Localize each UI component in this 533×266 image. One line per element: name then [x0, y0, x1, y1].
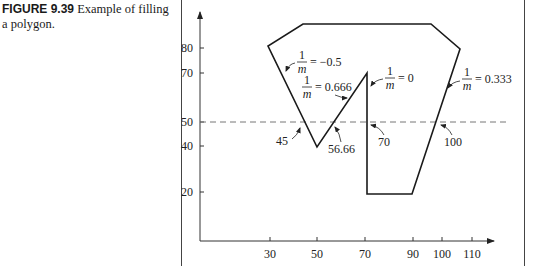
svg-text:= 0.333: = 0.333: [475, 72, 512, 86]
intersection-label-56-66: 56.66: [328, 127, 355, 156]
svg-text:1: 1: [304, 73, 310, 87]
y-tick-40: 40: [181, 139, 193, 153]
slope-label-neg-0-5: 1 m = −0.5: [286, 48, 342, 76]
svg-text:= −0.5: = −0.5: [310, 55, 342, 69]
x-tick-100: 100: [433, 247, 451, 261]
slope-label-0-333: 1 m = 0.333: [448, 65, 512, 93]
svg-text:1: 1: [299, 48, 305, 62]
y-tick-20: 20: [181, 185, 193, 199]
x-tick-70: 70: [359, 247, 371, 261]
polygon: [268, 24, 460, 194]
y-tick-70: 70: [181, 66, 193, 80]
svg-text:100: 100: [444, 135, 462, 149]
svg-text:56.66: 56.66: [328, 142, 355, 156]
svg-text:45: 45: [276, 134, 288, 148]
intersection-label-100: 100: [441, 125, 462, 149]
x-tick-110: 110: [463, 247, 481, 261]
y-tick-50: 50: [181, 115, 193, 129]
slope-label-0-666: 1 m = 0.666: [302, 73, 352, 101]
svg-text:m: m: [303, 87, 312, 101]
svg-text:70: 70: [378, 135, 390, 149]
svg-text:1: 1: [387, 64, 393, 78]
intersection-label-45: 45: [276, 128, 300, 148]
intersection-label-70: 70: [371, 125, 390, 149]
svg-text:= 0: = 0: [398, 71, 414, 85]
axes: [200, 12, 494, 241]
x-tick-90: 90: [407, 247, 419, 261]
svg-text:m: m: [463, 79, 472, 93]
svg-text:m: m: [386, 78, 395, 92]
x-tick-30: 30: [264, 247, 276, 261]
x-tick-50: 50: [311, 247, 323, 261]
svg-text:1: 1: [464, 65, 470, 79]
svg-text:= 0.666: = 0.666: [315, 80, 352, 94]
y-tick-80: 80: [181, 41, 193, 55]
slope-label-0: 1 m = 0: [371, 64, 414, 92]
